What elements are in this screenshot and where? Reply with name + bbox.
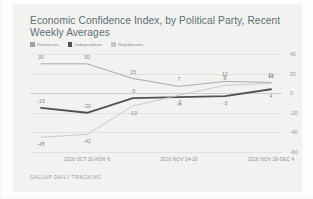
y-tick-label: 40 — [290, 51, 296, 57]
data-point-label: -5 — [131, 88, 136, 94]
line-democrats — [41, 64, 271, 87]
y-axis-labels: 40200-20-40-60 — [286, 54, 312, 152]
legend-label: Independents — [75, 42, 102, 47]
line-independents — [41, 89, 271, 113]
data-point-label: 30 — [38, 54, 44, 60]
line-republicans — [41, 83, 271, 137]
y-tick-label: -60 — [290, 149, 298, 155]
series-lines — [30, 54, 282, 152]
legend-swatch-icon — [68, 42, 73, 47]
data-point-label: -2 — [177, 99, 182, 105]
data-point-label: -45 — [37, 141, 45, 147]
data-point-label: -15 — [37, 98, 45, 104]
legend-item-republicans[interactable]: Republicans — [111, 42, 143, 47]
legend-swatch-icon — [111, 42, 116, 47]
chart-source: GALLUP DAILY TRACKING — [30, 175, 101, 180]
x-tick-label: 2016 OCT 31-NOV 6 — [64, 157, 110, 162]
legend-item-democrats[interactable]: Democrats — [30, 42, 59, 47]
y-tick-label: 0 — [290, 90, 293, 96]
chart-legend: DemocratsIndependentsRepublicans — [30, 42, 143, 47]
x-axis-labels: 2016 OCT 31-NOV 62016 NOV 14-202016 NOV … — [30, 157, 282, 169]
data-point-label: 30 — [84, 54, 90, 60]
chart-title: Economic Confidence Index, by Political … — [30, 15, 288, 40]
data-point-label: -3 — [223, 100, 228, 106]
legend-item-independents[interactable]: Independents — [68, 42, 102, 47]
data-point-label: 10 — [268, 73, 274, 79]
chart-page: Economic Confidence Index, by Political … — [0, 0, 313, 199]
y-tick-label: -20 — [290, 110, 298, 116]
legend-label: Democrats — [37, 42, 59, 47]
legend-label: Republicans — [118, 42, 143, 47]
data-point-label: -20 — [83, 103, 91, 109]
legend-swatch-icon — [30, 42, 35, 47]
y-tick-label: -40 — [290, 129, 298, 135]
plot-area: 30301571211-15-20-5-4-34-45-42-13-2810 — [30, 54, 282, 152]
gridline — [30, 152, 282, 153]
data-point-label: 8 — [224, 75, 227, 81]
data-point-label: -42 — [83, 138, 91, 144]
data-point-label: 4 — [270, 93, 273, 99]
x-tick-label: 2016 NOV 28-DEC 4 — [248, 157, 294, 162]
y-tick-label: 20 — [290, 71, 296, 77]
data-point-label: -13 — [129, 110, 137, 116]
data-point-label: 7 — [178, 76, 181, 82]
data-point-label: 15 — [130, 69, 136, 75]
x-tick-label: 2016 NOV 14-20 — [160, 157, 197, 162]
chart-card: Economic Confidence Index, by Political … — [14, 5, 301, 191]
